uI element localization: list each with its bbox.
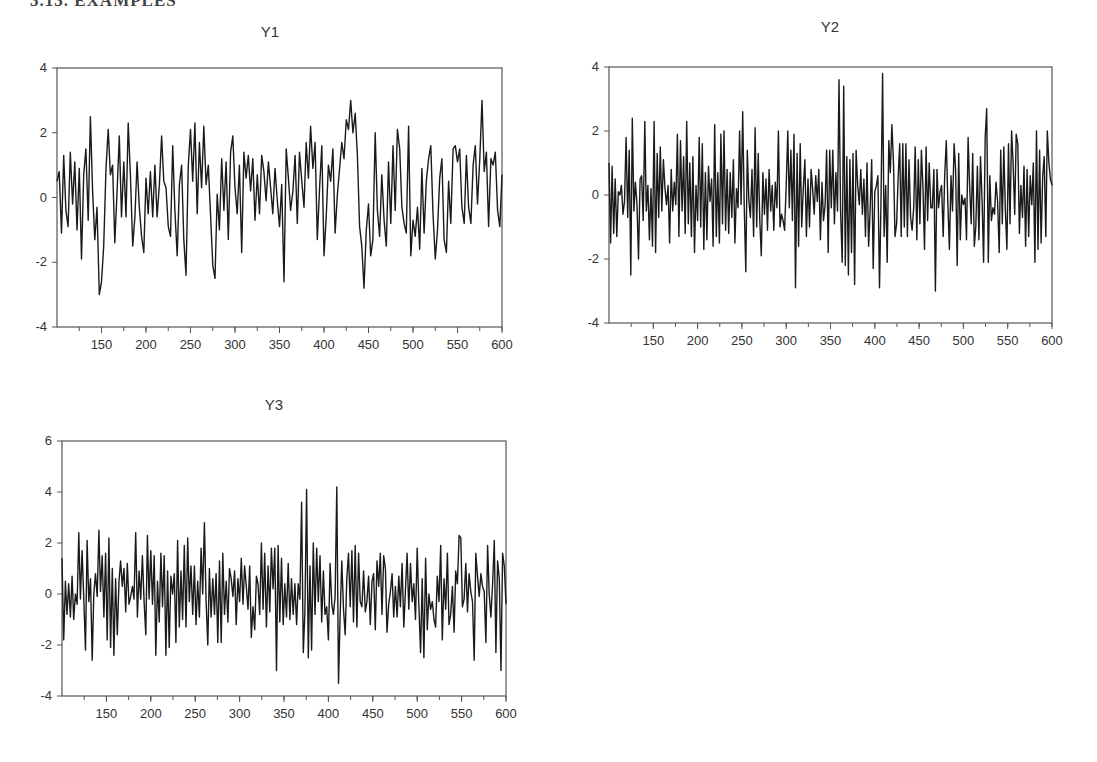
y-tick-label: 2: [22, 535, 52, 550]
x-tick-label: 300: [220, 706, 260, 721]
x-tick-label: 600: [1032, 333, 1072, 348]
x-tick-label: 200: [131, 706, 171, 721]
x-tick-label: 500: [943, 333, 983, 348]
x-tick-label: 450: [899, 333, 939, 348]
chart-y3: Y3 6420-2-415020025030035040045050055060…: [0, 0, 548, 762]
x-tick-label: 350: [264, 706, 304, 721]
y-tick-label: -4: [569, 315, 599, 330]
x-tick-label: 250: [175, 706, 215, 721]
x-tick-label: 400: [308, 706, 348, 721]
y-tick-label: 4: [22, 484, 52, 499]
x-tick-label: 400: [855, 333, 895, 348]
x-tick-label: 150: [633, 333, 673, 348]
y-tick-label: 6: [22, 433, 52, 448]
y-tick-label: 2: [569, 123, 599, 138]
x-tick-label: 550: [988, 333, 1028, 348]
y-tick-label: -4: [22, 688, 52, 703]
y-tick-label: 0: [22, 586, 52, 601]
x-tick-label: 250: [722, 333, 762, 348]
y-tick-label: -2: [22, 637, 52, 652]
x-tick-label: 200: [678, 333, 718, 348]
x-tick-label: 550: [442, 706, 482, 721]
x-tick-label: 150: [86, 706, 126, 721]
x-tick-label: 450: [353, 706, 393, 721]
x-tick-label: 300: [766, 333, 806, 348]
y-tick-label: 0: [569, 187, 599, 202]
y-tick-label: 4: [569, 59, 599, 74]
y-tick-label: -2: [569, 251, 599, 266]
x-tick-label: 600: [486, 706, 526, 721]
x-tick-label: 500: [397, 706, 437, 721]
x-tick-label: 350: [811, 333, 851, 348]
chart-plot: [0, 0, 548, 762]
